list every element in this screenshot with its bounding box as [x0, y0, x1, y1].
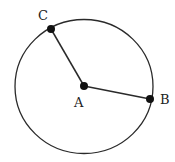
circle-diagram: A B C: [0, 0, 175, 162]
point-b: [146, 95, 154, 103]
point-a: [80, 82, 88, 90]
label-b: B: [160, 92, 170, 107]
label-a: A: [73, 95, 84, 110]
segment-ac: [51, 29, 84, 86]
segment-ab: [84, 86, 150, 99]
label-c: C: [38, 8, 48, 23]
point-c: [47, 25, 55, 33]
